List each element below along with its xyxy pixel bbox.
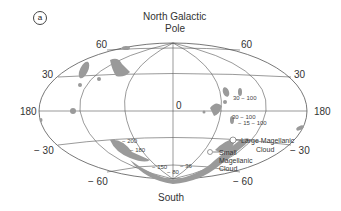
panel-label: a [33, 11, 47, 25]
title-line2: Pole [165, 24, 185, 34]
lat-label-left-m60: − 60 [88, 177, 108, 187]
lat-label-left-60: 60 [96, 40, 107, 50]
smc-label-line3: Cloud [219, 165, 237, 172]
lat-label-left-180: 180 [20, 107, 37, 117]
lmc-label-line1: Large Magellanic [241, 137, 294, 144]
lat-label-left-m30: − 30 [34, 146, 54, 156]
south-label: South [158, 193, 184, 203]
smc-label-line2: Magellanic [219, 157, 252, 164]
velocity-label-8: − 80 [167, 169, 179, 175]
cloud-regions [40, 46, 305, 184]
lat-label-right-30: 30 [294, 70, 305, 80]
velocity-label-3: − 15 − 100 [238, 120, 267, 126]
lmc-marker [230, 137, 236, 143]
smc-label-line1: Small [219, 149, 237, 156]
lat-label-right-180: 180 [314, 107, 331, 117]
latitude-30-north [58, 74, 291, 78]
lat-label-left-30: 30 [42, 70, 53, 80]
velocity-label-7: − 36 [180, 163, 192, 169]
lat-label-right-m30: − 30 [290, 146, 310, 156]
velocity-label-1: 30 − 100 [233, 95, 257, 101]
lmc-label-line2: Cloud [256, 146, 274, 153]
velocity-label-5: − 180 [130, 147, 145, 153]
velocity-label-6: − 150 [152, 164, 167, 170]
lat-label-right-m60: − 60 [233, 177, 253, 187]
title-line1: North Galactic [143, 12, 206, 22]
smc-marker [208, 150, 213, 155]
velocity-label-4: − 200 [122, 138, 137, 144]
center-zero-label: 0 [176, 101, 182, 111]
lat-label-right-60: 60 [241, 40, 252, 50]
